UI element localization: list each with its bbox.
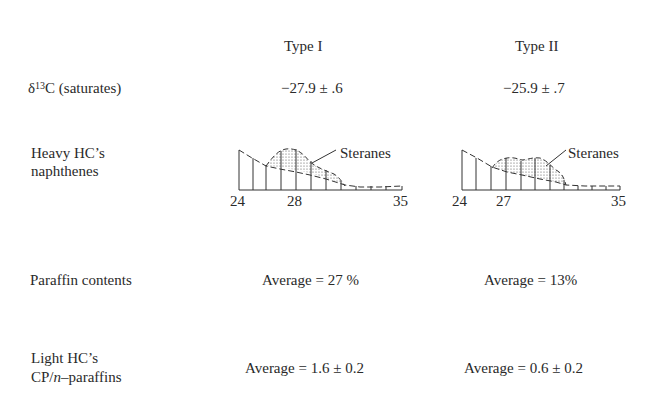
paraffin-type1-value: Average = 27 % — [262, 271, 359, 289]
row-label-light-line2: CP/n–paraffins — [31, 368, 122, 386]
row-label-paraffin: Paraffin contents — [30, 271, 132, 289]
n-italic: n — [54, 369, 62, 385]
chart2-tick-27: 27 — [496, 192, 511, 210]
light-type2-value: Average = 0.6 ± 0.2 — [464, 359, 583, 377]
cp-text: CP/ — [31, 369, 54, 385]
chart1-steranes-label: Steranes — [340, 145, 391, 161]
row-label-light-line1: Light HC’s — [31, 349, 98, 367]
paraffin-type2-value: Average = 13% — [484, 271, 577, 289]
chart2-steranes-label: Steranes — [568, 145, 619, 161]
paraffins-text: –paraffins — [61, 369, 122, 385]
chart2-tick-24: 24 — [452, 192, 467, 210]
chart1-tick-24: 24 — [230, 192, 245, 210]
chart1-tick-28: 28 — [287, 192, 302, 210]
light-type1-value: Average = 1.6 ± 0.2 — [245, 359, 364, 377]
chart2-tick-35: 35 — [611, 192, 626, 210]
chart1-tick-35: 35 — [393, 192, 408, 210]
